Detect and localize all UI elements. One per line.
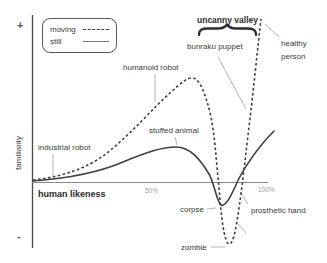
uncanny-valley-title: uncanny valley xyxy=(197,16,258,25)
bunraku-puppet-leader-line xyxy=(218,57,246,109)
prosthetic-hand-leader-line-lower xyxy=(238,224,246,233)
y-axis-title: familiarity xyxy=(14,124,26,182)
x-axis-title: human likeness xyxy=(38,190,106,199)
legend-row-still: still xyxy=(50,37,109,46)
healthy-person-leader-line xyxy=(265,24,279,37)
legend-row-moving: moving xyxy=(50,25,109,34)
x-tick-100: 100% xyxy=(258,186,275,193)
stuffed-animal-label: stuffed animal xyxy=(149,126,199,135)
stuffed-animal-leader-line xyxy=(175,137,177,145)
legend: moving still xyxy=(42,18,117,53)
legend-moving-label: moving xyxy=(50,25,83,34)
uncanny-valley-chart: moving still + - familiarity human liken… xyxy=(0,0,327,263)
healthy-person-label: healthy person xyxy=(281,37,315,63)
corpse-leader-line xyxy=(207,208,216,209)
moving-dashed-line-swatch xyxy=(83,29,109,30)
y-axis-minus-mark: - xyxy=(17,230,21,242)
industrial-robot-label: industrial robot xyxy=(38,143,90,152)
leader-lines xyxy=(53,24,279,247)
humanoid-robot-label: humanoid robot xyxy=(123,63,179,72)
prosthetic-hand-leader-line-upper xyxy=(241,193,248,204)
bunraku-puppet-label: bunraku puppet xyxy=(187,42,243,51)
legend-still-label: still xyxy=(50,37,83,46)
zombie-label: zombie xyxy=(181,243,207,252)
x-tick-50: 50% xyxy=(145,187,158,194)
y-axis-plus-mark: + xyxy=(17,19,23,31)
uncanny-valley-brace xyxy=(199,25,256,36)
still-solid-line-swatch xyxy=(83,41,109,42)
corpse-label: corpse xyxy=(180,205,204,214)
prosthetic-hand-label: prosthetic hand xyxy=(251,206,306,215)
